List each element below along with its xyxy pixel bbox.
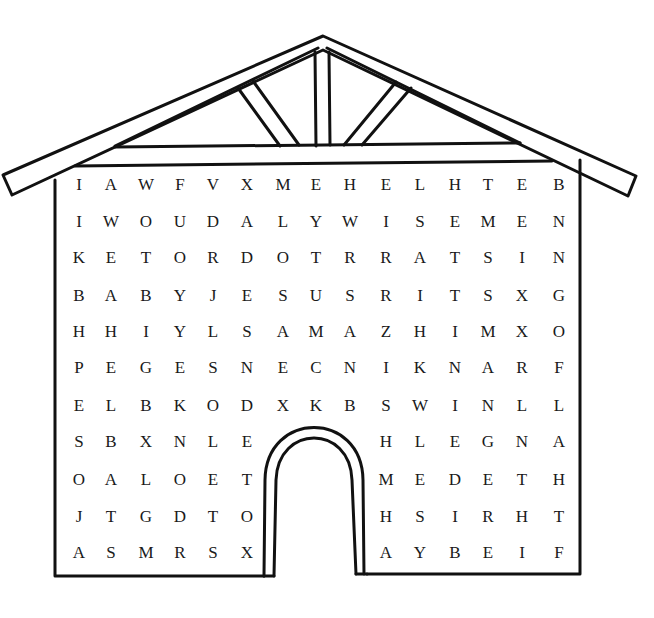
- grid-letter: N: [335, 356, 365, 380]
- grid-letter: E: [507, 210, 537, 234]
- grid-letter: A: [64, 541, 94, 565]
- door-arch: [264, 428, 367, 577]
- grid-letter: H: [507, 505, 537, 529]
- grid-letter: R: [198, 246, 228, 270]
- grid-letter: A: [335, 320, 365, 344]
- grid-letter: H: [544, 468, 574, 492]
- grid-letter: S: [268, 284, 298, 308]
- grid-letter: V: [198, 173, 228, 197]
- grid-letter: A: [544, 430, 574, 454]
- grid-letter: G: [131, 356, 161, 380]
- grid-letter: E: [232, 284, 262, 308]
- grid-letter: A: [96, 284, 126, 308]
- grid-letter: W: [335, 210, 365, 234]
- grid-letter: T: [440, 284, 470, 308]
- grid-letter: L: [268, 210, 298, 234]
- grid-letter: S: [371, 394, 401, 418]
- grid-letter: H: [405, 320, 435, 344]
- grid-letter: R: [473, 505, 503, 529]
- grid-letter: B: [96, 430, 126, 454]
- grid-letter: S: [335, 284, 365, 308]
- grid-letter: H: [96, 320, 126, 344]
- grid-letter: D: [165, 505, 195, 529]
- grid-letter: K: [165, 394, 195, 418]
- grid-letter: X: [232, 173, 262, 197]
- grid-letter: J: [64, 505, 94, 529]
- grid-letter: A: [405, 246, 435, 270]
- grid-letter: E: [96, 356, 126, 380]
- grid-letter: I: [507, 246, 537, 270]
- grid-letter: K: [301, 394, 331, 418]
- grid-letter: N: [232, 356, 262, 380]
- grid-letter: C: [301, 356, 331, 380]
- grid-letter: E: [232, 430, 262, 454]
- grid-letter: N: [165, 430, 195, 454]
- grid-letter: R: [371, 284, 401, 308]
- grid-letter: X: [131, 430, 161, 454]
- grid-letter: I: [440, 394, 470, 418]
- grid-letter: G: [131, 505, 161, 529]
- grid-letter: S: [232, 320, 262, 344]
- grid-letter: B: [335, 394, 365, 418]
- grid-letter: T: [544, 505, 574, 529]
- grid-letter: M: [131, 541, 161, 565]
- grid-letter: M: [473, 210, 503, 234]
- grid-letter: T: [301, 246, 331, 270]
- grid-letter: T: [131, 246, 161, 270]
- grid-letter: N: [440, 356, 470, 380]
- grid-letter: X: [507, 284, 537, 308]
- grid-letter: N: [473, 394, 503, 418]
- grid-letter: E: [301, 173, 331, 197]
- grid-letter: K: [405, 356, 435, 380]
- grid-letter: A: [268, 320, 298, 344]
- grid-letter: T: [507, 468, 537, 492]
- grid-letter: S: [64, 430, 94, 454]
- grid-letter: T: [232, 468, 262, 492]
- grid-letter: E: [371, 173, 401, 197]
- grid-letter: E: [473, 541, 503, 565]
- grid-letter: E: [268, 356, 298, 380]
- grid-letter: R: [507, 356, 537, 380]
- grid-letter: N: [507, 430, 537, 454]
- grid-letter: M: [371, 468, 401, 492]
- grid-letter: O: [131, 210, 161, 234]
- grid-letter: N: [544, 246, 574, 270]
- grid-letter: S: [405, 210, 435, 234]
- grid-letter: E: [507, 173, 537, 197]
- grid-letter: D: [440, 468, 470, 492]
- grid-letter: K: [64, 246, 94, 270]
- grid-letter: O: [64, 468, 94, 492]
- grid-letter: I: [405, 284, 435, 308]
- grid-letter: B: [131, 284, 161, 308]
- grid-letter: T: [473, 173, 503, 197]
- grid-letter: O: [232, 505, 262, 529]
- roof: [3, 36, 636, 196]
- grid-letter: H: [371, 430, 401, 454]
- grid-letter: I: [440, 505, 470, 529]
- grid-letter: E: [64, 394, 94, 418]
- grid-letter: W: [405, 394, 435, 418]
- grid-letter: A: [96, 173, 126, 197]
- grid-letter: F: [544, 541, 574, 565]
- grid-letter: F: [165, 173, 195, 197]
- grid-letter: L: [131, 468, 161, 492]
- grid-letter: I: [64, 210, 94, 234]
- grid-letter: A: [96, 468, 126, 492]
- grid-letter: Y: [405, 541, 435, 565]
- grid-letter: M: [301, 320, 331, 344]
- grid-letter: Y: [165, 284, 195, 308]
- grid-letter: B: [440, 541, 470, 565]
- grid-letter: S: [473, 246, 503, 270]
- grid-letter: Y: [165, 320, 195, 344]
- grid-letter: R: [371, 246, 401, 270]
- grid-letter: I: [371, 356, 401, 380]
- grid-letter: I: [507, 541, 537, 565]
- grid-letter: X: [507, 320, 537, 344]
- grid-letter: L: [405, 430, 435, 454]
- grid-letter: E: [473, 468, 503, 492]
- grid-letter: L: [507, 394, 537, 418]
- grid-letter: W: [96, 210, 126, 234]
- grid-letter: E: [198, 468, 228, 492]
- grid-letter: L: [544, 394, 574, 418]
- grid-letter: D: [232, 246, 262, 270]
